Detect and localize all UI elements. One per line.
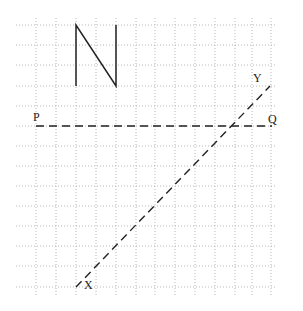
label-q: Q <box>268 112 277 126</box>
label-y: Y <box>253 71 262 85</box>
label-p: P <box>33 110 40 124</box>
label-x: X <box>84 278 93 292</box>
grid-diagram: P Q X Y <box>0 0 303 311</box>
dotted-grid <box>16 18 276 297</box>
north-letter-shape <box>76 25 116 86</box>
